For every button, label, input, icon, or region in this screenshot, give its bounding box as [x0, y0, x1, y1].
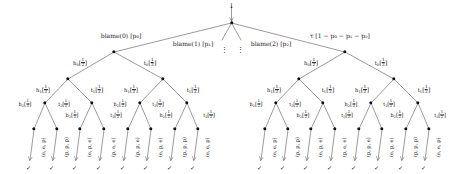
bracket-close: ] [260, 101, 262, 107]
edge-label-h2-left-2: h2[12] [66, 110, 79, 119]
edge-label-h2-left-1: h2[12] [19, 99, 32, 108]
edge-label-blame0: blame(0) [p₀] [101, 33, 142, 39]
edge-label-h1-right-b: h1[12] [355, 85, 369, 95]
tree-leaf-node[interactable] [286, 127, 289, 130]
tree-node-left-t0[interactable] [161, 77, 164, 80]
bracket-close: ] [351, 112, 353, 118]
tree-leaf-node[interactable] [309, 127, 312, 130]
tree-leaf-node[interactable] [32, 127, 35, 130]
leaf-label: (p, p, e) [134, 137, 140, 157]
edge-label-t2-right-1: t2[12] [289, 99, 301, 108]
leaf-checkmark: ✓ [257, 164, 262, 171]
edge-label-t2-right-4: t2[12] [434, 110, 446, 119]
edge-label-t2-right-2: t2[12] [341, 110, 353, 119]
bracket-close: ] [355, 101, 357, 107]
edge-label-t2-left-2: t2[12] [110, 110, 122, 119]
edge-label-h2-left-4: h2[12] [160, 110, 173, 119]
leaf-label: (p, p, p) [294, 137, 300, 157]
leaf-label: (e, e, p) [40, 138, 46, 157]
bracket-close: ] [136, 86, 138, 93]
edge-label-t0-right: t0[12] [375, 58, 388, 68]
tree-node-left-t0h1[interactable] [138, 101, 141, 104]
edge-label-h1-left-b: h1[12] [124, 85, 138, 95]
leaf-label: (p, p, p) [63, 137, 69, 157]
bracket-close: ] [48, 86, 50, 93]
bracket-close: ] [170, 112, 172, 118]
tree-node-right-t0[interactable] [392, 77, 395, 80]
leaf-checkmark: ✓ [327, 164, 332, 171]
bracket-close: ] [299, 101, 301, 107]
tree-node-right-h0h1[interactable] [274, 101, 277, 104]
tree-leaf-node[interactable] [126, 127, 129, 130]
edge-label-t2-left-3: t2[12] [152, 99, 164, 108]
edge-label-tau: τ [1 − p₀ − p₁ − p₂] [310, 33, 370, 39]
tree-node-left-t0t1[interactable] [185, 101, 188, 104]
tree-leaf-node[interactable] [173, 127, 176, 130]
leaf-checkmark: ✓ [120, 164, 125, 171]
edge-label-h0-left: h0[12] [73, 58, 87, 68]
leaf-checkmark: ✓ [143, 164, 148, 171]
bracket-close: ] [197, 86, 199, 93]
tree-node-right-h0[interactable] [297, 77, 300, 80]
ellipsis-left: ⋮ [221, 46, 228, 54]
tree-leaf-node[interactable] [357, 127, 360, 130]
tree-node-left-h0[interactable] [66, 77, 69, 80]
edge-label-t1-right-a: t1[12] [322, 85, 335, 95]
edge-label-h2-left-3: h2[12] [114, 99, 127, 108]
edge-label-h2-right-2: h2[12] [297, 110, 310, 119]
edge-label-t2-left-4: t2[12] [203, 110, 215, 119]
root-incoming-arrow-label: ↓ [229, 3, 235, 10]
edge-label-blame2: blame(2) [p₂] [251, 41, 292, 47]
edge-label-t2-left-1: t2[12] [58, 99, 70, 108]
bracket-close: ] [385, 59, 387, 66]
tree-leaf-node[interactable] [149, 127, 152, 130]
leaf-checkmark: ✓ [280, 164, 285, 171]
tree-node-tau[interactable] [343, 50, 346, 53]
tree-leaf-node[interactable] [102, 127, 105, 130]
leaf-checkmark: ✓ [398, 164, 403, 171]
bracket-close: ] [213, 112, 215, 118]
leaf-label: (p, p, e) [365, 137, 371, 157]
bracket-close: ] [124, 101, 126, 107]
leaf-label: (p, p, p) [412, 137, 418, 157]
ellipsis-right: ⋮ [237, 46, 244, 54]
bracket-close: ] [332, 86, 334, 93]
edge-label-blame1: blame(1) [p₁] [173, 41, 214, 47]
leaf-checkmark: ✓ [351, 164, 356, 171]
tree-node-left-h0h1[interactable] [43, 101, 46, 104]
edge-label-t0-left: t0[12] [144, 58, 157, 68]
edge-label-t2-right-3: t2[12] [383, 99, 395, 108]
bracket-close: ] [401, 112, 403, 118]
tree-leaf-node[interactable] [263, 127, 266, 130]
tree-leaf-node[interactable] [78, 127, 81, 130]
tree-leaf-node[interactable] [333, 127, 336, 130]
edge-label-t1-left-a: t1[12] [91, 85, 104, 95]
leaf-checkmark: ✓ [72, 164, 77, 171]
tree-node-left-h0t1[interactable] [90, 101, 93, 104]
leaf-checkmark: ✓ [167, 164, 172, 171]
leaf-label: (e, e, p) [435, 138, 441, 157]
tree-leaf-node[interactable] [404, 127, 407, 130]
leaf-label: (e, e, p) [204, 138, 210, 157]
leaf-label: (e, p, e) [86, 138, 92, 157]
bracket-close: ] [120, 112, 122, 118]
tree-leaf-node[interactable] [380, 127, 383, 130]
edge-label-h1-right-a: h1[12] [267, 85, 281, 95]
bracket-close: ] [85, 59, 87, 66]
bracket-close: ] [279, 86, 281, 93]
bracket-close: ] [76, 112, 78, 118]
bracket-close: ] [101, 86, 103, 93]
tree-node-blame0[interactable] [112, 50, 115, 53]
bracket-close: ] [307, 112, 309, 118]
tree-node-right-h0t1[interactable] [321, 101, 324, 104]
tree-node-right-t0h1[interactable] [369, 101, 372, 104]
tree-leaf-node[interactable] [427, 127, 430, 130]
leaf-label: (p, e, e) [341, 138, 347, 157]
tree-leaf-node[interactable] [196, 127, 199, 130]
leaf-checkmark: ✓ [26, 164, 31, 171]
leaf-label: (e, e, p) [271, 138, 277, 157]
tree-leaf-node[interactable] [55, 127, 58, 130]
tree-node-root[interactable] [230, 21, 233, 24]
tree-node-right-t0t1[interactable] [416, 101, 419, 104]
bracket-close: ] [316, 59, 318, 66]
